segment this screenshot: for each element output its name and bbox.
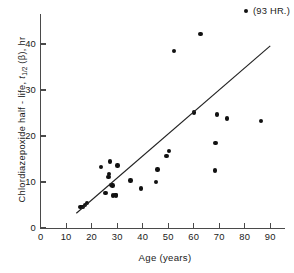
figure-caption-sliver [0, 266, 294, 273]
regression-line [0, 0, 294, 273]
scatter-plot-figure: Chlordiazepoxide half - life, t1/2 (β), … [0, 0, 294, 273]
offscale-point-marker [244, 9, 248, 13]
offscale-annotation-label: (93 HR.) [253, 5, 290, 16]
offscale-annotation: (93 HR.) [244, 5, 290, 16]
